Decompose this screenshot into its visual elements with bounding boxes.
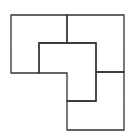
tiling-diagram (0, 0, 134, 140)
